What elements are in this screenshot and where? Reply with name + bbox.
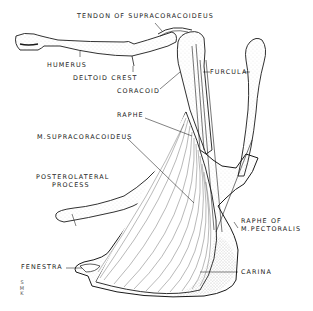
label-raphe: RAPHE — [117, 112, 144, 119]
label-posterolateral-process-line2: PROCESS — [52, 182, 90, 189]
label-posterolateral-process-line1: POSTEROLATERAL — [36, 174, 109, 181]
humerus-bone — [16, 32, 177, 66]
label-fenestra: FENESTRA — [21, 264, 63, 271]
diagram-canvas: TENDON OF SUPRACORACOIDEUS HUMERUS DELTO… — [0, 0, 313, 311]
label-carina: CARINA — [241, 269, 272, 276]
label-deltoid-crest: DELTOID CREST — [73, 75, 138, 82]
artist-signature: S M K — [19, 280, 25, 297]
signature-letter: K — [19, 291, 25, 297]
label-raphe-of-pectoralis-line2: M.PECTORALIS — [241, 226, 301, 233]
furcula-bone — [238, 38, 266, 176]
label-humerus: HUMERUS — [47, 62, 87, 69]
label-m-supracoracoideus: M.SUPRACORACOIDEUS — [37, 134, 132, 141]
label-raphe-of-pectoralis-line1: RAPHE OF — [241, 218, 282, 225]
label-furcula: FURCULA — [210, 69, 247, 76]
label-coracoid: CORACOID — [117, 88, 160, 95]
label-tendon-of-supracoracoideus: TENDON OF SUPRACORACOIDEUS — [77, 13, 214, 20]
